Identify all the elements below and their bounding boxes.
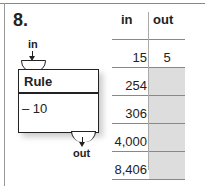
row-divider (112, 179, 185, 180)
out-cell[interactable] (149, 96, 185, 124)
rule-box: Rule – 10 (18, 69, 99, 133)
out-cell: 5 (149, 40, 185, 68)
header-out: out (153, 12, 173, 27)
in-value: 15 (133, 50, 147, 65)
header-in: in (121, 12, 133, 27)
in-value: 8,406 (114, 162, 147, 177)
left-rule (4, 3, 5, 186)
problem-number: 8. (13, 10, 28, 31)
machine-in-label: in (28, 38, 38, 50)
output-hopper-icon (71, 131, 96, 142)
column-divider (148, 12, 149, 170)
arrow-down-icon (82, 137, 83, 144)
out-cell[interactable] (149, 124, 185, 152)
out-cell[interactable] (149, 68, 185, 96)
rule-divider (19, 92, 98, 94)
machine-out-label: out (73, 147, 90, 159)
rule-operation: – 10 (22, 101, 47, 116)
in-value: 4,000 (114, 134, 147, 149)
top-rule (0, 3, 205, 4)
out-cell[interactable] (149, 152, 185, 180)
out-value: 5 (149, 50, 185, 65)
in-value: 254 (125, 78, 147, 93)
rule-title: Rule (24, 74, 52, 89)
arrow-down-icon (32, 51, 33, 58)
in-value: 306 (125, 106, 147, 121)
